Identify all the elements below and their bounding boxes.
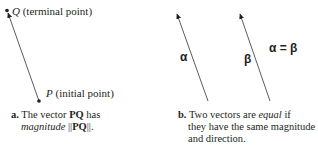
initial-point-desc: (initial point) <box>55 87 113 99</box>
caption-a-text: ||. <box>87 121 94 132</box>
point-p-letter: P <box>46 87 53 99</box>
terminal-point-desc: (terminal point) <box>23 5 92 17</box>
magnitude-term: magnitude <box>21 121 65 132</box>
vector-beta-label: β <box>244 53 251 66</box>
vector-pq-name: PQ <box>69 109 84 120</box>
vector-alpha-label: α <box>180 51 187 64</box>
terminal-point-label: Q (terminal point) <box>12 5 92 17</box>
caption-a-line1: a. The vector PQ has <box>11 109 100 121</box>
caption-b-line2: they have the same magnitude <box>178 121 315 133</box>
caption-a-line2: magnitude ||PQ||. <box>11 121 100 133</box>
caption-b-text: Two vectors are <box>189 109 259 120</box>
caption-a: a. The vector PQ has magnitude ||PQ||. <box>11 109 100 133</box>
caption-a-text: has <box>84 109 101 120</box>
vector-pq-name: PQ <box>72 121 87 132</box>
caption-b-marker: b. <box>178 109 186 120</box>
vector-pq-arrow <box>8 13 39 101</box>
caption-b-line1: b. Two vectors are equal if <box>178 109 315 121</box>
point-q-dot <box>5 9 9 13</box>
caption-a-marker: a. <box>11 109 19 120</box>
caption-b: b. Two vectors are equal if they have th… <box>178 109 315 145</box>
caption-a-text: The vector <box>21 109 69 120</box>
caption-b-line3: and direction. <box>178 133 315 145</box>
initial-point-label: P (initial point) <box>46 87 114 99</box>
point-p-dot <box>37 99 41 103</box>
point-q-letter: Q <box>12 5 20 17</box>
equal-term: equal <box>258 109 281 120</box>
equality-equation: α = β <box>269 42 297 55</box>
caption-b-text: if <box>282 109 291 120</box>
